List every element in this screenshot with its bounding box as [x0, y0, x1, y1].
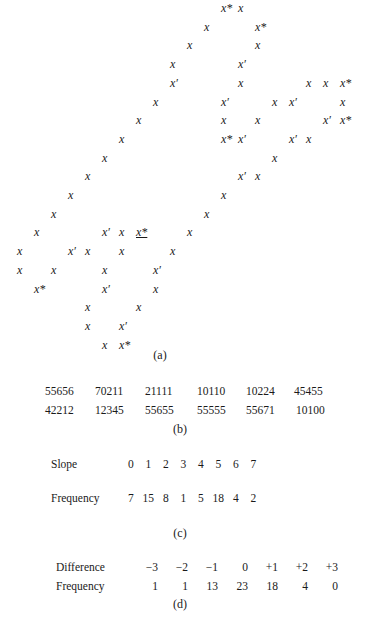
grid-point: x [136, 114, 141, 126]
grid-point: x′ [153, 264, 161, 276]
grid-point: x* [221, 133, 232, 145]
table-cell: 5 [210, 458, 228, 470]
grid-point: x [119, 226, 124, 238]
grid-point: x [102, 339, 107, 351]
grid-point: x [119, 133, 124, 145]
table-cell: +1 [248, 561, 278, 573]
code: 12345 [95, 404, 145, 416]
grid-point: x [136, 301, 141, 313]
code-row-2: 42212 12345 55655 55555 55671 10100 [45, 404, 325, 416]
grid-point: x′ [289, 96, 297, 108]
difference-row: Difference −3−2−10+1+2+3 [56, 561, 338, 573]
code: 55555 [197, 404, 246, 416]
table-cell: 7 [245, 458, 263, 470]
grid-point: x [221, 114, 226, 126]
grid-point: x [204, 21, 209, 33]
grid-point: x [119, 245, 124, 257]
table-cell: 8 [157, 492, 175, 504]
table-cell: 23 [218, 580, 248, 592]
grid-point: x [34, 226, 39, 238]
code-row-1: 55656 70211 21111 10110 10224 45455 [45, 385, 323, 397]
grid-point: x [153, 96, 158, 108]
table-cell: 6 [227, 458, 245, 470]
grid-point: x [17, 264, 22, 276]
grid-point: x [170, 245, 175, 257]
grid-point: x* [255, 21, 266, 33]
grid-point: x [272, 96, 277, 108]
table-cell: 2 [245, 492, 263, 504]
table-cell: 18 [210, 492, 228, 504]
table-cell: 1 [175, 492, 193, 504]
slope-label: Slope [51, 458, 122, 470]
table-cell: 0 [308, 580, 338, 592]
difference-label: Difference [56, 561, 128, 573]
grid-point: x [51, 208, 56, 220]
table-cell: 13 [188, 580, 218, 592]
grid-point: x′ [170, 77, 178, 89]
grid-point: x [255, 170, 260, 182]
grid-point: x′ [102, 283, 110, 295]
grid-point: x′ [289, 133, 297, 145]
grid-point: x [306, 133, 311, 145]
grid-point: x [187, 226, 192, 238]
grid-point: x [17, 245, 22, 257]
grid-point: x [204, 208, 209, 220]
grid-point: x [238, 2, 243, 14]
grid-point: x [187, 39, 192, 51]
table-cell: −2 [158, 561, 188, 573]
code: 55656 [45, 385, 95, 397]
grid-point: x [221, 189, 226, 201]
grid-point: x [238, 77, 243, 89]
caption-b: (b) [160, 423, 200, 435]
table-cell: 7 [122, 492, 140, 504]
grid-point: x [153, 283, 158, 295]
code: 42212 [45, 404, 95, 416]
grid-point: x [85, 245, 90, 257]
table-cell: +3 [308, 561, 338, 573]
table-cell: 2 [157, 458, 175, 470]
grid-point: x′ [221, 96, 229, 108]
grid-point: x′ [238, 133, 246, 145]
code: 10224 [246, 385, 294, 397]
grid-point: x* [340, 77, 351, 89]
table-cell: 4 [227, 492, 245, 504]
grid-point: x [306, 77, 311, 89]
grid-point: x* [34, 283, 45, 295]
grid-point: x [68, 189, 73, 201]
slope-frequency-row: Frequency 7158151842 [51, 492, 262, 504]
grid-point: x [102, 152, 107, 164]
grid-point: x [102, 264, 107, 276]
difference-frequency-row: Frequency 1113231840 [56, 580, 338, 592]
chain-code-grid: x*xxx*xxxx′x′xxxx*xx′xx′xxxxx′x*xx*x′x′x… [0, 0, 365, 360]
table-cell: 1 [140, 458, 158, 470]
code: 10110 [197, 385, 246, 397]
slope-row: Slope 01234567 [51, 458, 262, 470]
table-cell: 0 [122, 458, 140, 470]
grid-point: x* [340, 114, 351, 126]
table-cell: +2 [278, 561, 308, 573]
table-cell: 1 [158, 580, 188, 592]
table-cell: 4 [278, 580, 308, 592]
grid-point: x′ [238, 170, 246, 182]
grid-point: x [85, 320, 90, 332]
grid-point: x′ [119, 320, 127, 332]
table-cell: 5 [192, 492, 210, 504]
grid-point: x* [221, 2, 232, 14]
grid-point: x′ [323, 114, 331, 126]
grid-point: x [255, 114, 260, 126]
grid-point: x [170, 58, 175, 70]
grid-point: x′ [102, 226, 110, 238]
table-cell: −1 [188, 561, 218, 573]
grid-point: x [85, 301, 90, 313]
grid-point: x [51, 264, 56, 276]
table-cell: −3 [128, 561, 158, 573]
table-cell: 18 [248, 580, 278, 592]
caption-a: (a) [140, 349, 180, 361]
grid-point: x [340, 96, 345, 108]
table-cell: 4 [192, 458, 210, 470]
code: 55655 [145, 404, 197, 416]
grid-point: x′ [238, 58, 246, 70]
grid-point: x [272, 152, 277, 164]
code: 45455 [294, 385, 323, 397]
grid-point: x [255, 39, 260, 51]
